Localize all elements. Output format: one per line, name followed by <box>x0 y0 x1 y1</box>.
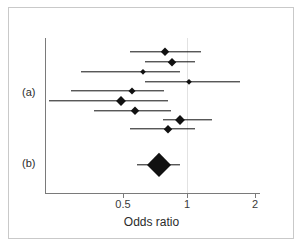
study-diamond-marker <box>129 88 136 95</box>
forest-plot-figure: (a) (b) 0.5 1 2 Odds ratio <box>0 0 303 249</box>
x-tick-label-1: 1 <box>184 198 190 210</box>
study-diamond-marker <box>168 58 176 66</box>
x-axis-title: Odds ratio <box>0 215 303 229</box>
confidence-interval-line <box>49 100 168 101</box>
x-tick-label-0: 0.5 <box>115 198 130 210</box>
confidence-interval-line <box>71 90 164 91</box>
confidence-interval-line <box>163 119 213 120</box>
group-label-a: (a) <box>22 86 35 98</box>
x-axis-line <box>45 193 260 194</box>
study-diamond-marker <box>141 69 147 75</box>
study-diamond-marker <box>116 96 126 106</box>
x-tick-label-2: 2 <box>252 198 258 210</box>
summary-diamond-marker <box>147 153 171 177</box>
study-diamond-marker <box>175 115 185 125</box>
plot-area: (a) (b) 0.5 1 2 Odds ratio <box>0 0 303 249</box>
study-diamond-marker <box>164 125 172 133</box>
study-diamond-marker <box>161 48 170 57</box>
confidence-interval-line <box>81 71 181 72</box>
group-label-b: (b) <box>22 157 35 169</box>
y-axis-line <box>45 38 46 194</box>
study-diamond-marker <box>131 107 140 116</box>
